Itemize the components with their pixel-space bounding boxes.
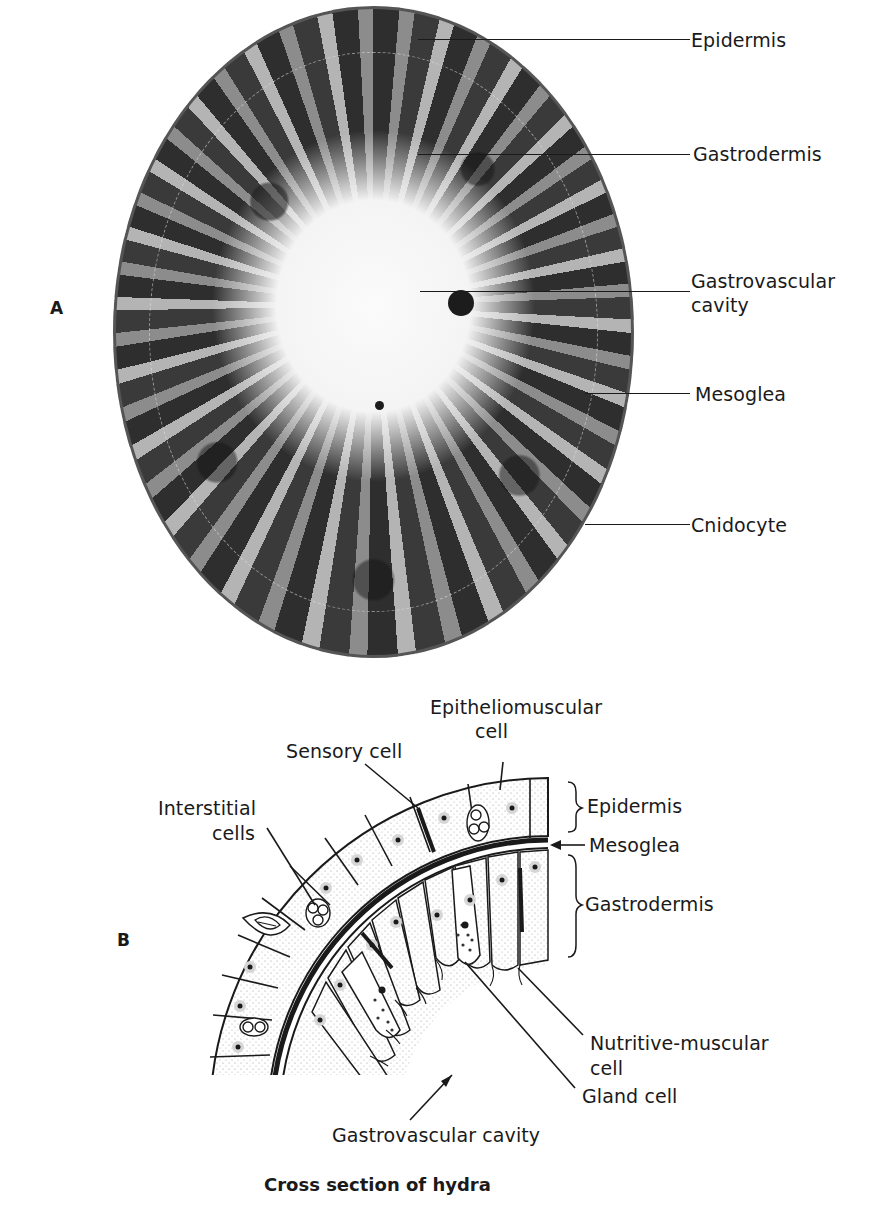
label-interstitial-line1: Interstitial	[158, 797, 256, 819]
epidermis-brace	[568, 782, 582, 832]
label-gastrodermis-b: Gastrodermis	[585, 893, 714, 915]
label-sensory-cell: Sensory cell	[286, 740, 402, 762]
label-nutritive-line1: Nutritive-muscular	[590, 1032, 769, 1054]
cell-layers	[210, 778, 548, 1116]
label-epitheliomuscular-line2: cell	[475, 720, 508, 742]
gastrodermis-brace	[568, 855, 582, 957]
label-gland-cell: Gland cell	[582, 1085, 677, 1107]
label-nutritive-line2: cell	[590, 1057, 623, 1079]
figure-caption: Cross section of hydra	[264, 1174, 491, 1195]
label-mesoglea-b: Mesoglea	[589, 834, 680, 856]
label-epitheliomuscular-line1: Epitheliomuscular	[430, 696, 602, 718]
label-gastrovascular-cavity-b: Gastrovascular cavity	[332, 1124, 540, 1146]
label-interstitial-line2: cells	[212, 822, 255, 844]
label-epidermis-b: Epidermis	[587, 795, 682, 817]
mesoglea-arrowhead	[550, 840, 561, 850]
